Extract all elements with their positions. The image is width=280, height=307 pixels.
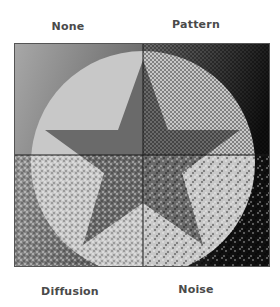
quadrant-label-diffusion: Diffusion xyxy=(41,285,99,298)
quadrant-label-none: None xyxy=(52,20,85,33)
quadrant-label-pattern: Pattern xyxy=(172,18,220,31)
quadrant-label-noise: Noise xyxy=(178,283,214,296)
dither-comparison-image xyxy=(14,43,270,267)
